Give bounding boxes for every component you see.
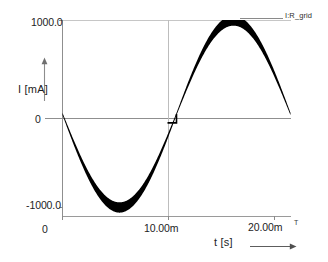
x-tick-end-marker: T	[294, 219, 298, 226]
trace-group	[63, 15, 291, 212]
x-tick-label-end: 20.00m	[248, 222, 282, 233]
y-tick-label-zero: 0	[35, 114, 41, 125]
y-tick-label-top: 1000.0	[31, 17, 63, 28]
x-axis-title: t [s]	[214, 237, 233, 248]
x-tick-label-start: 0	[42, 224, 48, 235]
x-tick-label-mid: 10.00m	[144, 223, 178, 234]
legend-entry-label: I:R_grid	[285, 12, 312, 20]
right-arrow-icon	[250, 244, 297, 250]
chart-figure: 1000.0 0 -1000.0 I [mA] 0 10.00m 20.00m …	[0, 0, 328, 262]
y-tick-label-bottom: -1000.0	[26, 200, 61, 211]
y-axis-title: I [mA]	[18, 84, 48, 95]
